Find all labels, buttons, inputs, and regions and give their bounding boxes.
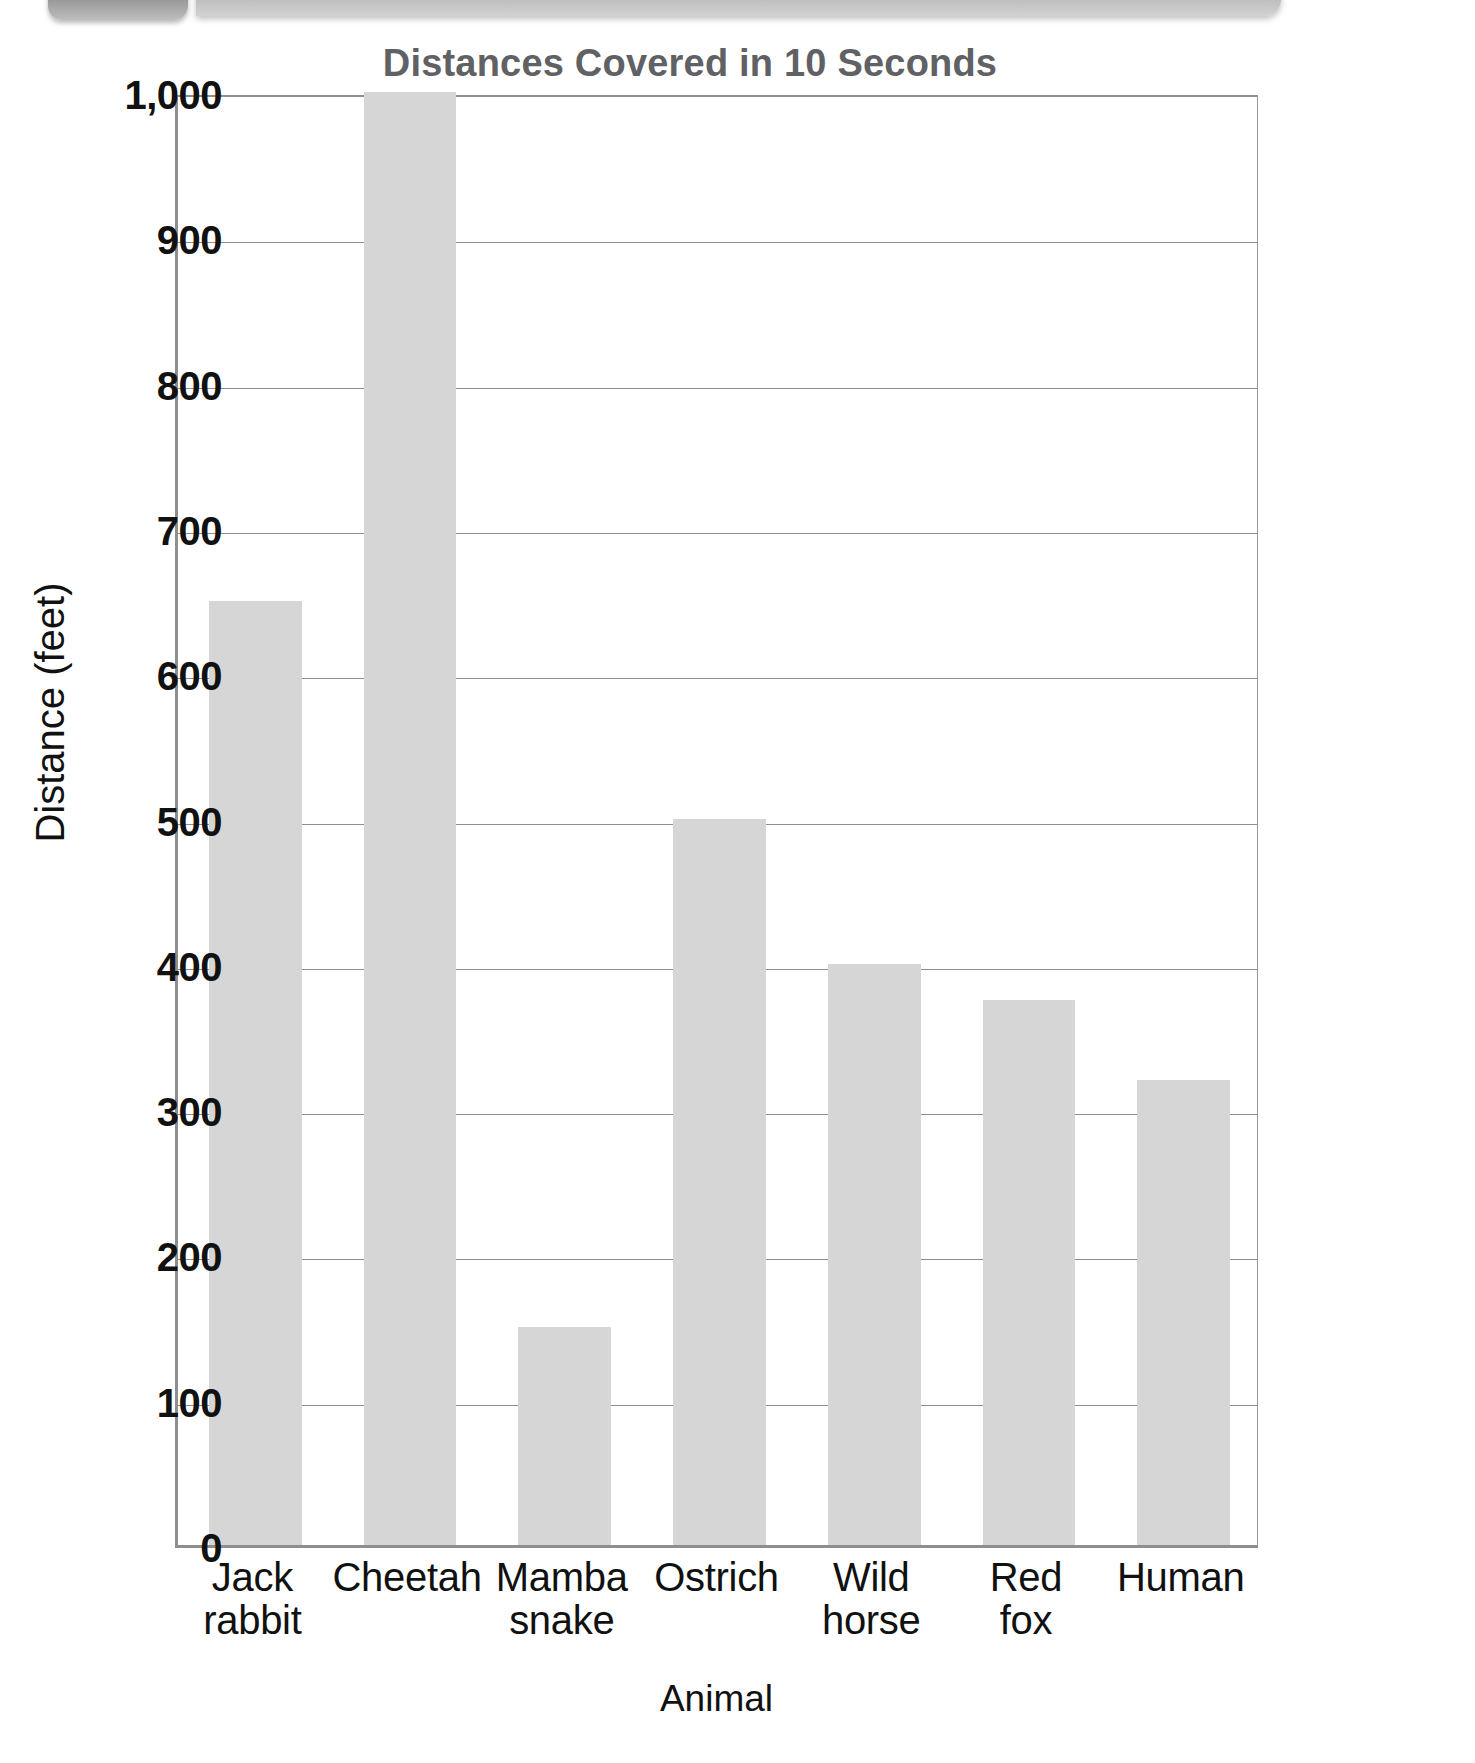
x-axis-tick-label-ostrich: Ostrich bbox=[639, 1556, 794, 1676]
page-banner-decoration bbox=[196, 0, 1281, 16]
x-axis-tick-label-red-fox: Redfox bbox=[949, 1556, 1104, 1676]
bar-mamba-snake[interactable] bbox=[518, 1327, 611, 1545]
x-axis-tick-labels: JackrabbitCheetahMambasnakeOstrichWildho… bbox=[175, 1556, 1258, 1676]
bar-human[interactable] bbox=[1137, 1080, 1230, 1545]
x-axis-tick-label-wild-horse: Wildhorse bbox=[794, 1556, 949, 1676]
y-axis-tick-label: 400 bbox=[22, 944, 222, 989]
x-axis-title: Animal bbox=[175, 1678, 1258, 1720]
y-axis-tick-label: 900 bbox=[22, 218, 222, 263]
y-axis-tick-label: 300 bbox=[22, 1090, 222, 1135]
y-axis-tick-label: 1,000 bbox=[22, 73, 222, 118]
plot-area bbox=[175, 95, 1258, 1548]
x-axis-tick-label-jack-rabbit: Jackrabbit bbox=[175, 1556, 330, 1676]
bar-ostrich[interactable] bbox=[673, 819, 766, 1546]
x-axis-tick-label-cheetah: Cheetah bbox=[330, 1556, 485, 1676]
bar-jack-rabbit[interactable] bbox=[209, 601, 302, 1545]
gridline-600 bbox=[178, 678, 1257, 679]
y-axis-tick-label: 200 bbox=[22, 1235, 222, 1280]
gridline-700 bbox=[178, 533, 1257, 534]
gridline-800 bbox=[178, 388, 1257, 389]
page-tab-decoration bbox=[48, 0, 188, 20]
bar-wild-horse[interactable] bbox=[828, 964, 921, 1545]
y-axis-tick-label: 500 bbox=[22, 799, 222, 844]
y-axis-tick-label: 700 bbox=[22, 508, 222, 553]
bar-cheetah[interactable] bbox=[364, 92, 457, 1545]
x-axis-tick-label-human: Human bbox=[1103, 1556, 1258, 1676]
bar-red-fox[interactable] bbox=[983, 1000, 1076, 1545]
y-axis-tick-label: 600 bbox=[22, 654, 222, 699]
gridline-900 bbox=[178, 242, 1257, 243]
y-axis-tick-label: 100 bbox=[22, 1380, 222, 1425]
x-axis-tick-label-mamba-snake: Mambasnake bbox=[484, 1556, 639, 1676]
y-axis-tick-label: 800 bbox=[22, 363, 222, 408]
y-axis-tick-label: 0 bbox=[22, 1526, 222, 1571]
page-header-decoration bbox=[0, 0, 1475, 34]
